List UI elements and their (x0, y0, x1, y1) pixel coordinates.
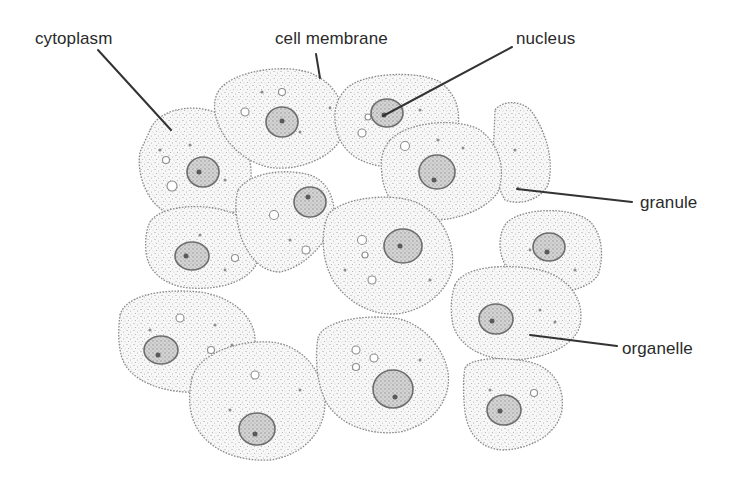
label-granule: granule (640, 194, 697, 211)
cell-diagram (0, 0, 754, 481)
cell (493, 103, 550, 203)
label-nucleus: nucleus (516, 30, 575, 47)
leader-line-cytoplasm (98, 50, 171, 130)
leader-line-cell-membrane (316, 54, 320, 78)
label-cell-membrane: cell membrane (275, 30, 388, 47)
label-organelle: organelle (622, 340, 693, 357)
label-cytoplasm: cytoplasm (35, 30, 112, 47)
cell (451, 266, 581, 360)
